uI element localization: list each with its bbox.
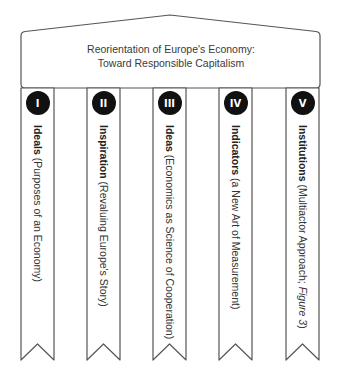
roof-title-line-2: Toward Responsible Capitalism — [22, 56, 320, 70]
pillar-3-label-detail: (Economics as Science of Cooperation) — [164, 152, 176, 339]
pillar-5-numeral-badge: V — [291, 91, 315, 115]
pillar-4-label-detail: (a New Art of Measurement) — [230, 175, 242, 309]
pillar-4-label: Indicators (a New Art of Measurement) — [230, 125, 242, 309]
pillar-5-label-bold: Institutions — [297, 125, 309, 182]
pillar-4-label-bold: Indicators — [230, 125, 242, 175]
pillar-1-label-bold: Ideals — [32, 125, 44, 155]
pillar-2-label-detail: (Revaluing Europe's Story) — [98, 179, 110, 307]
pillar-3-numeral-badge: III — [158, 91, 182, 115]
pillar-5-label: Institutions (Multiactor Approach; Figur… — [297, 125, 309, 329]
pillar-3-label-bold: Ideas — [164, 125, 176, 152]
pillar-1-label: Ideals (Purposes of an Economy) — [32, 125, 44, 282]
pillar-5-label-tail: ) — [297, 325, 309, 329]
roof-title: Reorientation of Europe's Economy: Towar… — [22, 42, 320, 70]
pillar-1-label-detail: (Purposes of an Economy) — [32, 155, 44, 282]
roof-title-line-1: Reorientation of Europe's Economy: — [22, 42, 320, 56]
pillar-2-label-bold: Inspiration — [98, 125, 110, 179]
pillar-5-label-figure-ref: Figure 3 — [297, 287, 309, 326]
pillar-2-numeral-badge: II — [92, 91, 116, 115]
pillar-1-numeral-badge: I — [26, 91, 50, 115]
pillar-5-label-detail: (Multiactor Approach; — [297, 182, 309, 287]
pillar-4-numeral-badge: IV — [224, 91, 248, 115]
pillar-3-label: Ideas (Economics as Science of Cooperati… — [164, 125, 176, 339]
pillar-2-label: Inspiration (Revaluing Europe's Story) — [98, 125, 110, 307]
